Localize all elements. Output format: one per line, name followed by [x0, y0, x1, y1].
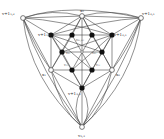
edge — [112, 18, 141, 70]
filled-node — [89, 32, 94, 37]
graph-canvas: v+1₁,₂x₀v+1₂,₁v+1₁,₂v+1₂,₁x₁x₂v+1₃,₃v₃,₃… — [0, 0, 164, 139]
node-label: v+1₁,₂ — [37, 32, 51, 37]
filled-node — [69, 32, 74, 37]
node-label: x₁ — [42, 72, 46, 77]
filled-node — [69, 67, 74, 72]
edge — [62, 35, 72, 52]
inner-label: v₀₁ — [65, 51, 71, 55]
filled-node — [89, 67, 94, 72]
inner-label: v₂₁ — [95, 63, 101, 67]
node-label: v+1₂,₁ — [141, 11, 155, 16]
graph-diagram: v+1₁,₂x₀v+1₂,₁v+1₁,₂v+1₂,₁x₁x₂v+1₃,₃v₃,₃… — [0, 0, 164, 139]
node-label: x₂ — [116, 72, 120, 77]
edge — [23, 16, 82, 18]
edge — [82, 16, 112, 35]
node-label: v+1₃,₃ — [67, 91, 81, 96]
edge — [23, 18, 51, 70]
inner-label: v₀₂ — [91, 51, 97, 55]
filled-node — [79, 85, 84, 90]
open-node — [80, 125, 85, 130]
open-node — [110, 68, 115, 73]
open-node — [139, 16, 144, 21]
node-label: x₀ — [80, 8, 84, 13]
edge — [51, 35, 92, 70]
open-node — [49, 68, 54, 73]
open-node — [80, 14, 85, 19]
inner-label: v₁₂ — [63, 63, 69, 67]
filled-node — [59, 49, 64, 54]
inner-label: v₀₁,₀₂ — [75, 38, 85, 42]
open-node — [21, 16, 26, 21]
center-node — [81, 51, 83, 53]
edge — [51, 16, 82, 35]
node-label: v+1₂,₁ — [113, 32, 127, 37]
node-label: v+1₁,₂ — [1, 11, 15, 16]
node-label: v₃,₃ — [77, 133, 85, 138]
filled-node — [99, 49, 104, 54]
